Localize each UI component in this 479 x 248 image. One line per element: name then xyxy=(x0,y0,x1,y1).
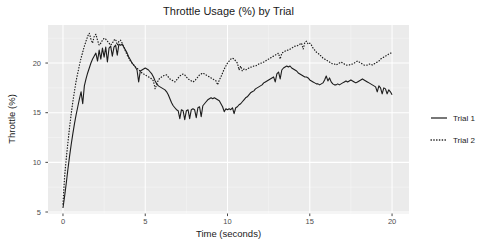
y-tick-label-15: 15 xyxy=(17,108,41,117)
x-axis-title: Time (seconds) xyxy=(48,228,409,239)
y-tick-label-5: 5 xyxy=(17,208,41,217)
legend-label: Trial 1 xyxy=(453,114,475,123)
y-tick-label-20: 20 xyxy=(17,59,41,68)
legend-item-trial-2: Trial 2 xyxy=(430,129,475,151)
x-tick-label-0: 0 xyxy=(48,217,78,226)
legend-label: Trial 2 xyxy=(453,136,475,145)
x-tick-label-5: 5 xyxy=(130,217,160,226)
legend-item-trial-1: Trial 1 xyxy=(430,107,475,129)
y-tick-label-10: 10 xyxy=(17,158,41,167)
legend: Trial 1Trial 2 xyxy=(430,107,475,151)
solid-line-key-icon xyxy=(430,112,448,124)
dotted-line-key-icon xyxy=(430,134,448,146)
plot-area xyxy=(0,0,479,248)
x-tick-label-10: 10 xyxy=(213,217,243,226)
x-tick-label-20: 20 xyxy=(377,217,407,226)
x-tick-label-15: 15 xyxy=(295,217,325,226)
chart-figure: Throttle Usage (%) by Trial Throttle (%)… xyxy=(0,0,479,248)
